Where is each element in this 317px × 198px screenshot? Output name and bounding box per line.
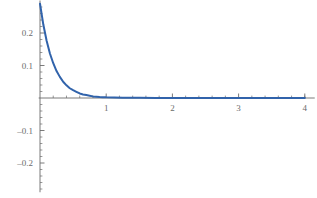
data-curve [40, 4, 305, 98]
x-tick-label: 1 [104, 103, 109, 113]
plot-figure: –0.2–0.10.10.21234 [0, 0, 317, 198]
curve-layer [40, 4, 305, 98]
x-tick-label: 4 [303, 103, 308, 113]
y-tick-label: –0.2 [16, 158, 33, 168]
x-tick-label: 3 [236, 103, 241, 113]
axes-layer [39, 1, 315, 193]
x-tick-label: 2 [170, 103, 175, 113]
y-tick-label: 0.2 [22, 28, 33, 38]
y-tick-label: 0.1 [22, 61, 33, 71]
plot-canvas: –0.2–0.10.10.21234 [0, 0, 317, 198]
y-tick-label: –0.1 [16, 126, 33, 136]
